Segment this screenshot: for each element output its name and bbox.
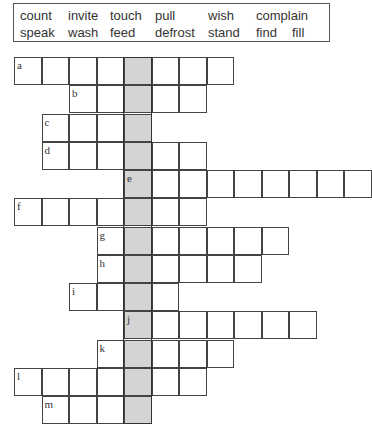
answer-cell[interactable]: c: [42, 114, 70, 142]
answer-cell[interactable]: [69, 396, 97, 424]
answer-cell[interactable]: [179, 85, 207, 113]
answer-cell[interactable]: f: [14, 198, 42, 226]
answer-cell[interactable]: [207, 57, 235, 85]
answer-cell[interactable]: [262, 227, 290, 255]
answer-cell[interactable]: d: [42, 142, 70, 170]
answer-cell[interactable]: [42, 198, 70, 226]
shaded-answer-cell[interactable]: e: [124, 170, 152, 198]
clue-label: l: [17, 371, 20, 382]
answer-cell[interactable]: [262, 170, 290, 198]
answer-cell[interactable]: i: [69, 283, 97, 311]
answer-cell[interactable]: [42, 368, 70, 396]
clue-label: a: [17, 60, 22, 71]
answer-cell[interactable]: [69, 114, 97, 142]
answer-cell[interactable]: [97, 85, 125, 113]
answer-cell[interactable]: [69, 57, 97, 85]
answer-cell[interactable]: [289, 311, 317, 339]
answer-cell[interactable]: [97, 283, 125, 311]
answer-cell[interactable]: [207, 255, 235, 283]
answer-cell[interactable]: [207, 227, 235, 255]
answer-cell[interactable]: [152, 57, 180, 85]
answer-cell[interactable]: [179, 227, 207, 255]
answer-cell[interactable]: [289, 170, 317, 198]
answer-cell[interactable]: [97, 114, 125, 142]
clue-label: g: [100, 230, 106, 241]
answer-cell[interactable]: [69, 198, 97, 226]
answer-cell[interactable]: [179, 142, 207, 170]
answer-cell[interactable]: [179, 198, 207, 226]
answer-cell[interactable]: [97, 198, 125, 226]
answer-cell[interactable]: [179, 170, 207, 198]
shaded-answer-cell[interactable]: [124, 255, 152, 283]
shaded-answer-cell[interactable]: [124, 396, 152, 424]
answer-cell[interactable]: k: [97, 340, 125, 368]
clue-label: m: [45, 399, 54, 410]
answer-cell[interactable]: [344, 170, 372, 198]
shaded-answer-cell[interactable]: [124, 368, 152, 396]
clue-label: b: [72, 88, 78, 99]
answer-cell[interactable]: [234, 170, 262, 198]
answer-cell[interactable]: [207, 311, 235, 339]
answer-cell[interactable]: [152, 170, 180, 198]
shaded-answer-cell[interactable]: [124, 114, 152, 142]
answer-cell[interactable]: m: [42, 396, 70, 424]
answer-cell[interactable]: [152, 283, 180, 311]
answer-cell[interactable]: [179, 255, 207, 283]
answer-cell[interactable]: [179, 340, 207, 368]
clue-label: h: [100, 258, 106, 269]
answer-cell[interactable]: [69, 368, 97, 396]
answer-cell[interactable]: [97, 396, 125, 424]
shaded-answer-cell[interactable]: [124, 340, 152, 368]
answer-cell[interactable]: [179, 311, 207, 339]
answer-cell[interactable]: [317, 170, 345, 198]
answer-cell[interactable]: g: [97, 227, 125, 255]
answer-cell[interactable]: [234, 255, 262, 283]
answer-cell[interactable]: [152, 85, 180, 113]
answer-cell[interactable]: [97, 57, 125, 85]
answer-cell[interactable]: [97, 368, 125, 396]
shaded-answer-cell[interactable]: j: [124, 311, 152, 339]
answer-cell[interactable]: [152, 340, 180, 368]
answer-cell[interactable]: [152, 227, 180, 255]
answer-cell[interactable]: [234, 227, 262, 255]
clue-label: j: [127, 314, 130, 325]
answer-cell[interactable]: [207, 170, 235, 198]
answer-cell[interactable]: [69, 142, 97, 170]
answer-cell[interactable]: [152, 311, 180, 339]
clue-label: i: [72, 286, 75, 297]
answer-cell[interactable]: [207, 340, 235, 368]
answer-cell[interactable]: b: [69, 85, 97, 113]
answer-cell[interactable]: [42, 57, 70, 85]
shaded-answer-cell[interactable]: [124, 198, 152, 226]
answer-cell[interactable]: [152, 142, 180, 170]
clue-label: d: [45, 145, 51, 156]
answer-cell[interactable]: [179, 368, 207, 396]
answer-cell[interactable]: [234, 311, 262, 339]
answer-cell[interactable]: [97, 142, 125, 170]
answer-cell[interactable]: [152, 198, 180, 226]
clue-label: k: [100, 343, 106, 354]
shaded-answer-cell[interactable]: [124, 283, 152, 311]
answer-cell[interactable]: l: [14, 368, 42, 396]
answer-cell[interactable]: h: [97, 255, 125, 283]
answer-cell[interactable]: a: [14, 57, 42, 85]
shaded-answer-cell[interactable]: [124, 227, 152, 255]
answer-cell[interactable]: [152, 368, 180, 396]
answer-cell[interactable]: [262, 311, 290, 339]
shaded-answer-cell[interactable]: [124, 85, 152, 113]
clue-label: e: [127, 173, 132, 184]
shaded-answer-cell[interactable]: [124, 57, 152, 85]
clue-label: c: [45, 117, 50, 128]
answer-cell[interactable]: [152, 255, 180, 283]
answer-cell[interactable]: [179, 57, 207, 85]
shaded-answer-cell[interactable]: [124, 142, 152, 170]
clue-label: f: [17, 201, 21, 212]
